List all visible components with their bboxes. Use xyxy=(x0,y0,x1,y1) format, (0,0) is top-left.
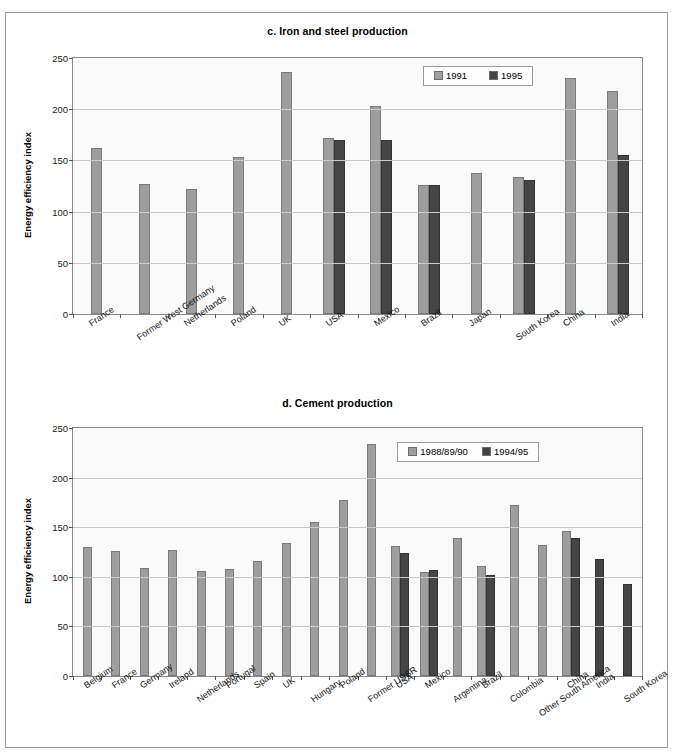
bar xyxy=(429,185,440,314)
bar xyxy=(323,138,334,314)
bar-group xyxy=(272,428,300,676)
bar-group xyxy=(120,58,167,314)
bar xyxy=(91,148,102,314)
bar-group xyxy=(547,58,594,314)
legend-item: 1994/95 xyxy=(482,447,528,457)
chart-d-plot-area: BelgiumFranceGermanyIrelandNetherlandsPo… xyxy=(72,427,643,677)
bar-group xyxy=(263,58,310,314)
bar-group xyxy=(595,58,642,314)
x-axis-tick-label: Colombia xyxy=(508,675,545,705)
x-axis-tickmark xyxy=(642,314,643,318)
bar-group xyxy=(557,428,585,676)
bar-group xyxy=(443,428,471,676)
bar-group xyxy=(215,58,262,314)
bar-group xyxy=(452,58,499,314)
gridline xyxy=(73,527,642,528)
bar-group xyxy=(310,58,357,314)
legend-swatch-icon xyxy=(434,71,443,80)
y-axis-tick-label: 200 xyxy=(52,472,68,483)
chart-d-x-axis-labels: BelgiumFranceGermanyIrelandNetherlandsPo… xyxy=(73,676,642,746)
legend-label: 1988/89/90 xyxy=(420,447,468,457)
bar xyxy=(618,155,629,314)
bar xyxy=(571,538,580,676)
y-axis-tick-label: 100 xyxy=(52,206,68,217)
bar xyxy=(429,570,438,676)
y-axis-tick-label: 0 xyxy=(63,671,68,682)
legend-item: 1995 xyxy=(489,71,522,81)
x-axis-tickmark xyxy=(642,676,643,680)
x-axis-tick-label: UK xyxy=(281,675,297,690)
y-axis-tick-label: 250 xyxy=(52,53,68,64)
y-axis-tickmark xyxy=(69,527,73,528)
chart-c-y-axis-label: Energy efficiency index xyxy=(22,132,33,238)
bar xyxy=(565,78,576,314)
chart-iron-and-steel-production: c. Iron and steel production Energy effi… xyxy=(6,13,669,385)
figure-frame: c. Iron and steel production Energy effi… xyxy=(5,12,668,748)
bar xyxy=(140,568,149,676)
bar-group xyxy=(301,428,329,676)
y-axis-tickmark xyxy=(69,263,73,264)
chart-d-title: d. Cement production xyxy=(6,397,669,409)
bar xyxy=(168,550,177,676)
bar xyxy=(453,538,462,676)
bar xyxy=(400,553,409,676)
y-axis-tickmark xyxy=(69,428,73,429)
bar-group xyxy=(585,428,613,676)
bar xyxy=(253,561,262,676)
legend-item: 1991 xyxy=(434,71,467,81)
bar-group xyxy=(405,58,452,314)
chart-d-y-axis-label: Energy efficiency index xyxy=(22,498,33,604)
legend-item: 1988/89/90 xyxy=(408,447,468,457)
figure-page: c. Iron and steel production Energy effi… xyxy=(0,0,674,756)
chart-d-legend: 1988/89/901994/95 xyxy=(397,442,539,462)
bar-group xyxy=(471,428,499,676)
chart-d-bars xyxy=(73,428,642,676)
bar xyxy=(197,571,206,676)
bar-group xyxy=(73,428,101,676)
y-axis-tickmark xyxy=(69,58,73,59)
y-axis-tickmark xyxy=(69,314,73,315)
bar-group xyxy=(329,428,357,676)
y-axis-tickmark xyxy=(69,478,73,479)
y-axis-tick-label: 250 xyxy=(52,423,68,434)
y-axis-tickmark xyxy=(69,676,73,677)
gridline xyxy=(73,109,642,110)
y-axis-tick-label: 150 xyxy=(52,155,68,166)
bar xyxy=(510,505,519,676)
gridline xyxy=(73,263,642,264)
y-axis-tick-label: 50 xyxy=(57,621,68,632)
bar-group xyxy=(614,428,642,676)
bar-group xyxy=(414,428,442,676)
y-axis-tickmark xyxy=(69,626,73,627)
bar xyxy=(471,173,482,314)
bar xyxy=(420,572,429,676)
bar-group xyxy=(358,58,405,314)
y-axis-tickmark xyxy=(69,577,73,578)
gridline xyxy=(73,577,642,578)
legend-swatch-icon xyxy=(482,447,491,456)
legend-label: 1995 xyxy=(501,71,522,81)
bar-group xyxy=(500,428,528,676)
bar xyxy=(282,543,291,676)
y-axis-tick-label: 200 xyxy=(52,104,68,115)
bar xyxy=(334,140,345,314)
bar-group xyxy=(101,428,129,676)
bar xyxy=(418,185,429,314)
gridline xyxy=(73,160,642,161)
legend-label: 1991 xyxy=(446,71,467,81)
legend-swatch-icon xyxy=(408,447,417,456)
bar xyxy=(623,584,632,676)
y-axis-tickmark xyxy=(69,109,73,110)
bar xyxy=(381,140,392,314)
chart-c-x-axis-labels: FranceFormer West GermanyNetherlandsPola… xyxy=(73,314,642,384)
bar-group xyxy=(158,428,186,676)
chart-cement-production: d. Cement production Energy efficiency i… xyxy=(6,389,669,749)
bar xyxy=(562,531,571,676)
y-axis-tick-label: 150 xyxy=(52,522,68,533)
bar-group xyxy=(358,428,386,676)
bar-group xyxy=(215,428,243,676)
bar-group xyxy=(500,58,547,314)
gridline xyxy=(73,626,642,627)
y-axis-tickmark xyxy=(69,212,73,213)
bar xyxy=(83,547,92,676)
